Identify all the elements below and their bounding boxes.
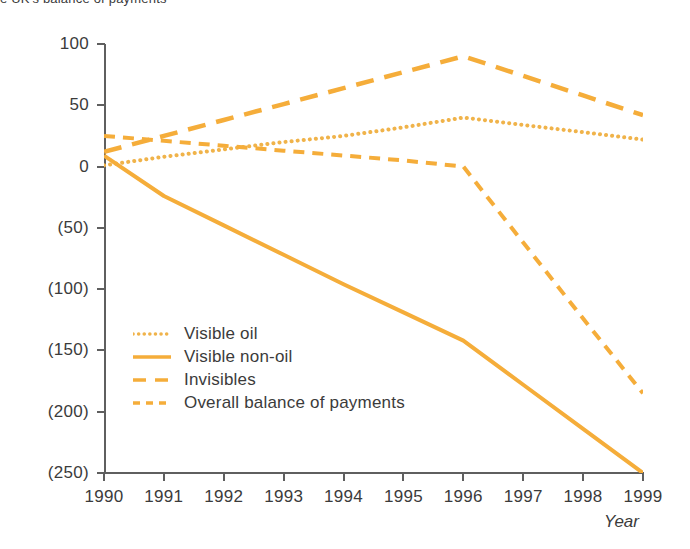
legend-item[interactable]: Visible oil [133, 322, 463, 345]
legend-swatch-dotted-icon [133, 327, 171, 341]
x-tick-mark [522, 472, 524, 481]
x-tick-label: 1999 [613, 487, 673, 507]
legend-item[interactable]: Overall balance of payments [133, 391, 463, 414]
x-tick-mark [582, 472, 584, 481]
y-tick-label: 50 [29, 95, 89, 115]
legend-label: Visible oil [184, 324, 258, 344]
chart-figure: e UK's balance of payments 100500(50)(10… [0, 0, 690, 549]
y-tick-label: (200) [29, 402, 89, 422]
y-tick-label: (150) [29, 340, 89, 360]
legend-item[interactable]: Visible non-oil [133, 345, 463, 368]
x-tick-mark [343, 472, 345, 481]
x-tick-mark [283, 472, 285, 481]
y-tick-label: (100) [29, 279, 89, 299]
legend-swatch-solid-icon [133, 350, 171, 364]
y-tick-label: 0 [29, 157, 89, 177]
legend-label: Invisibles [184, 370, 256, 390]
x-tick-label: 1997 [493, 487, 553, 507]
legend-label: Overall balance of payments [184, 393, 405, 413]
clipped-caption: e UK's balance of payments [0, 0, 300, 7]
x-tick-label: 1992 [194, 487, 254, 507]
x-tick-mark [642, 472, 644, 481]
x-axis-title: Year [604, 512, 639, 532]
x-tick-label: 1995 [373, 487, 433, 507]
y-tick-label: 100 [29, 34, 89, 54]
x-tick-mark [223, 472, 225, 481]
x-tick-label: 1994 [314, 487, 374, 507]
x-tick-label: 1991 [134, 487, 194, 507]
legend-swatch-short-dash-icon [133, 396, 171, 410]
legend-item[interactable]: Invisibles [133, 368, 463, 391]
x-tick-label: 1998 [553, 487, 613, 507]
x-tick-mark [103, 472, 105, 481]
x-tick-label: 1993 [254, 487, 314, 507]
x-tick-mark [163, 472, 165, 481]
series-line [104, 156, 643, 473]
x-tick-label: 1990 [74, 487, 134, 507]
legend-swatch-long-dash-icon [133, 373, 171, 387]
series-line [104, 56, 643, 152]
x-tick-label: 1996 [433, 487, 493, 507]
legend-label: Visible non-oil [184, 347, 293, 367]
y-tick-label: (250) [29, 463, 89, 483]
x-tick-mark [402, 472, 404, 481]
chart-legend: Visible oilVisible non-oilInvisiblesOver… [133, 322, 463, 414]
x-tick-mark [462, 472, 464, 481]
y-tick-label: (50) [29, 218, 89, 238]
